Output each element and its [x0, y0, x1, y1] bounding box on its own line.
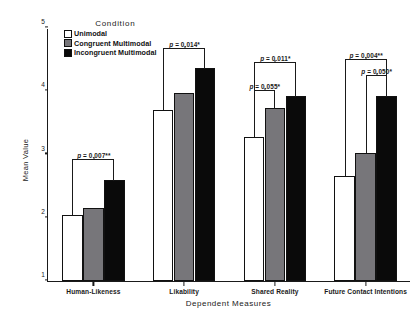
significance-bracket-leg — [113, 160, 114, 181]
bar-unimodal — [153, 110, 174, 281]
p-value-label: p = 0.014* — [169, 41, 200, 48]
y-axis-tick-label: 2 — [41, 207, 48, 214]
bar-unimodal — [62, 215, 83, 281]
x-axis-tick-label: Likability — [169, 288, 199, 295]
legend-item-incongruent-multimodal: Incongruent Multimodal — [64, 48, 157, 58]
legend-item-label: Incongruent Multimodal — [74, 48, 157, 57]
significance-bracket: p = 0.050* — [366, 75, 387, 153]
legend-item-congruent-multimodal: Congruent Multimodal — [64, 39, 157, 49]
significance-bracket: p = 0.007** — [72, 159, 114, 215]
significance-bracket-leg — [204, 49, 205, 69]
y-axis-title: Mean Value — [21, 138, 30, 180]
x-axis-tick-mark — [184, 281, 185, 286]
plot-area: 12345Human-Likenessp = 0.007**Likability… — [47, 29, 410, 282]
y-axis-tick-label: 4 — [41, 81, 48, 88]
bar-congruent — [83, 208, 104, 281]
x-axis-tick-mark — [93, 281, 94, 286]
p-value-label: p = 0.007** — [77, 152, 110, 159]
legend-swatch-icon — [64, 30, 72, 38]
legend-item-unimodal: Unimodal — [64, 29, 157, 39]
p-value-label: p = 0.011* — [260, 55, 290, 62]
significance-bracket-leg — [295, 63, 296, 97]
y-axis-tick-label: 5 — [41, 18, 48, 25]
x-axis-tick-label: Shared Reality — [251, 288, 298, 295]
legend-swatch-icon — [64, 49, 72, 57]
significance-bracket: p = 0.014* — [163, 48, 205, 109]
y-axis-tick-label: 3 — [41, 144, 48, 151]
legend: Condition Unimodal Congruent Multimodal … — [62, 17, 161, 60]
bar-unimodal — [334, 176, 355, 281]
bar-congruent — [174, 93, 195, 281]
legend-title: Condition — [64, 19, 157, 28]
legend-item-label: Congruent Multimodal — [74, 39, 151, 48]
x-axis-tick-mark — [365, 281, 366, 286]
x-axis-tick-label: Future Contact Intentions — [324, 288, 407, 295]
significance-bracket: p = 0.055* — [254, 90, 275, 137]
legend-swatch-icon — [64, 39, 72, 47]
x-axis-tick-label: Human-Likeness — [66, 288, 120, 295]
p-value-label: p = 0.004** — [349, 52, 382, 59]
y-axis-tick-label: 1 — [41, 271, 48, 278]
y-axis-tick-mark — [45, 26, 49, 27]
p-value-label: p = 0.050* — [361, 68, 392, 75]
bar-chart: Mean Value 12345Human-Likenessp = 0.007*… — [0, 0, 418, 319]
p-value-label: p = 0.055* — [249, 83, 280, 90]
x-axis-title: Dependent Measures — [47, 299, 410, 308]
x-axis-tick-mark — [274, 281, 275, 286]
significance-bracket-leg — [386, 76, 387, 98]
bar-unimodal — [244, 137, 265, 281]
significance-bracket-leg — [274, 91, 275, 109]
legend-item-label: Unimodal — [74, 29, 107, 38]
